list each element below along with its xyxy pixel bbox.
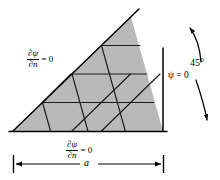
fraction-numerator: ∂ψ	[27, 49, 39, 58]
bc-left-equals: = 0	[42, 55, 54, 64]
figure-container: ∂ψ ∂n = 0 ∂ψ ∂n = 0 ψ = 0 45° a	[0, 0, 220, 180]
partial-derivative-fraction-bottom: ∂ψ ∂n	[66, 140, 78, 161]
boundary-condition-right: ψ = 0	[168, 71, 189, 81]
angle-arc-lower	[196, 80, 207, 120]
partial-derivative-fraction-left: ∂ψ ∂n	[27, 49, 39, 70]
angle-label: 45°	[190, 58, 204, 68]
dimension-label-a: a	[84, 158, 89, 168]
boundary-condition-left: ∂ψ ∂n = 0	[27, 43, 53, 70]
wedge-mesh-diagram	[0, 0, 220, 180]
fraction-denominator: ∂n	[28, 60, 39, 69]
fraction-denominator: ∂n	[67, 151, 78, 160]
bc-bottom-equals: = 0	[81, 146, 93, 155]
fraction-numerator: ∂ψ	[66, 140, 78, 149]
angle-arc-arrow	[190, 28, 207, 120]
